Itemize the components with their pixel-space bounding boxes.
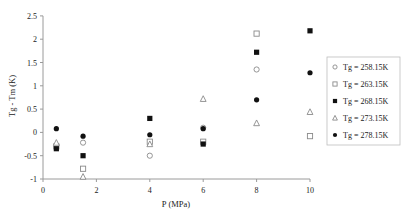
y-tick-label: -1 [30, 175, 37, 184]
filled-square-marker [333, 99, 337, 103]
filled-circle-marker [54, 126, 59, 131]
open-triangle-marker [80, 174, 86, 180]
filled-circle-marker [307, 70, 312, 75]
x-tick-label: 4 [148, 186, 152, 195]
open-circle-marker [254, 67, 259, 72]
open-square-marker [307, 134, 312, 139]
open-square-marker [254, 31, 259, 36]
y-tick-label: 2.5 [27, 12, 37, 21]
axes: -1-0.500.511.522.50246810 [24, 12, 314, 195]
filled-square-marker [147, 116, 152, 121]
series-tg-268-15k [54, 28, 313, 158]
filled-square-marker [54, 146, 59, 151]
filled-circle-marker [333, 133, 337, 137]
legend-label: Tg = 263.15K [343, 80, 388, 89]
open-triangle-marker [254, 120, 260, 126]
y-tick-label: -0.5 [24, 152, 37, 161]
series-tg-273-15k [53, 96, 312, 180]
x-tick-label: 2 [94, 186, 98, 195]
open-square-marker [333, 82, 337, 86]
series-tg-258-15k [54, 67, 259, 158]
legend-label: Tg = 273.15K [343, 114, 388, 123]
filled-circle-marker [80, 134, 85, 139]
open-circle-marker [147, 153, 152, 158]
legend-label: Tg = 258.15K [343, 63, 388, 72]
filled-square-marker [80, 153, 85, 158]
x-tick-label: 6 [201, 186, 205, 195]
open-square-marker [80, 166, 85, 171]
x-tick-label: 8 [255, 186, 259, 195]
scatter-chart: -1-0.500.511.522.50246810 P (MPa) Tg - T… [0, 0, 405, 222]
filled-circle-marker [254, 97, 259, 102]
series-tg-278-15k [54, 70, 313, 139]
filled-square-marker [307, 28, 312, 33]
x-tick-label: 0 [41, 186, 45, 195]
y-tick-label: 1.5 [27, 59, 37, 68]
open-triangle-marker [53, 140, 59, 146]
open-circle-marker [80, 140, 85, 145]
filled-square-marker [201, 141, 206, 146]
filled-circle-marker [147, 132, 152, 137]
legend: Tg = 258.15KTg = 263.15KTg = 268.15KTg =… [327, 57, 400, 145]
filled-square-marker [254, 50, 259, 55]
legend-label: Tg = 278.15K [343, 131, 388, 140]
open-triangle-marker [307, 109, 313, 115]
x-tick-label: 10 [306, 186, 314, 195]
y-tick-label: 0 [33, 128, 37, 137]
y-tick-label: 2 [33, 35, 37, 44]
y-axis-title: Tg - Tm (K) [7, 75, 17, 117]
open-circle-marker [333, 65, 337, 69]
x-axis-title: P (MPa) [162, 199, 190, 209]
legend-label: Tg = 268.15K [343, 97, 388, 106]
y-tick-label: 1 [33, 82, 37, 91]
y-tick-label: 0.5 [27, 105, 37, 114]
filled-circle-marker [201, 126, 206, 131]
series-tg-263-15k [54, 31, 313, 171]
open-triangle-marker [200, 96, 206, 102]
data-points [53, 28, 312, 179]
